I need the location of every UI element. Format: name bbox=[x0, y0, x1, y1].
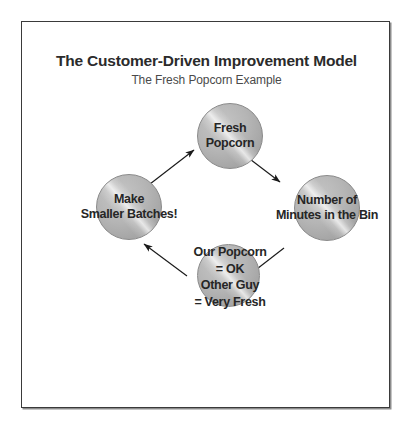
node-fresh-popcorn[interactable]: Fresh Popcorn bbox=[197, 103, 263, 169]
node-comparison-label: Our Popcorn = OK Other Guy = Very Fresh bbox=[193, 244, 266, 310]
label-line: Other Guy bbox=[193, 277, 266, 294]
label-line: Our Popcorn bbox=[193, 244, 266, 261]
node-fresh-popcorn-label: Fresh Popcorn bbox=[206, 121, 255, 151]
label-line: Make bbox=[81, 192, 178, 207]
node-minutes-bin-label: Number of Minutes in the Bin bbox=[276, 193, 378, 223]
node-smaller-batches[interactable]: Make Smaller Batches! bbox=[96, 174, 162, 240]
label-line: = Very Fresh bbox=[193, 294, 266, 311]
slide-canvas: The Customer-Driven Improvement Model Th… bbox=[0, 0, 414, 430]
label-line: Smaller Batches! bbox=[81, 207, 178, 222]
label-line: Fresh bbox=[206, 121, 255, 136]
node-comparison[interactable]: Our Popcorn = OK Other Guy = Very Fresh bbox=[197, 244, 263, 310]
node-smaller-batches-label: Make Smaller Batches! bbox=[81, 192, 178, 222]
cycle-diagram: Fresh Popcorn Number of Minutes in the B… bbox=[22, 22, 391, 409]
arrow-comparison-to-batches bbox=[144, 244, 187, 276]
node-minutes-bin[interactable]: Number of Minutes in the Bin bbox=[294, 175, 360, 241]
label-line: = OK bbox=[193, 261, 266, 278]
slide-frame: The Customer-Driven Improvement Model Th… bbox=[21, 21, 390, 408]
label-line: Number of bbox=[276, 193, 378, 208]
label-line: Minutes in the Bin bbox=[276, 208, 378, 223]
label-line: Popcorn bbox=[206, 136, 255, 151]
